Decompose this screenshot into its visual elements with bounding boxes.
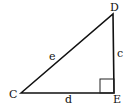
side-label-d: d [65, 93, 72, 106]
triangle-diagram: D C E e c d [0, 0, 129, 110]
vertex-label-d: D [110, 1, 119, 14]
vertex-label-e: E [113, 93, 121, 106]
vertex-label-c: C [9, 88, 17, 101]
side-label-c: c [117, 47, 123, 60]
right-angle-marker [100, 79, 114, 93]
side-label-e: e [49, 50, 56, 63]
